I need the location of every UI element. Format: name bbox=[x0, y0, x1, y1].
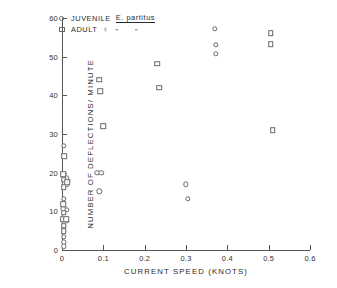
data-point-adult bbox=[268, 41, 274, 47]
data-point-adult bbox=[97, 89, 103, 95]
data-point-adult bbox=[60, 202, 66, 208]
y-tick-label: 10 bbox=[49, 207, 58, 216]
scatter-chart-figure: NUMBER OF DEFLECTIONS/ MINUTE CURRENT SP… bbox=[0, 0, 337, 288]
data-point-juvenile bbox=[96, 189, 101, 194]
data-point-juvenile bbox=[61, 143, 66, 148]
x-tick bbox=[145, 245, 146, 250]
y-tick-label: 50 bbox=[49, 52, 58, 61]
y-tick-label: 20 bbox=[49, 168, 58, 177]
x-tick-label: 0.1 bbox=[98, 254, 109, 263]
y-tick-label: 40 bbox=[49, 91, 58, 100]
y-tick-label: 30 bbox=[49, 130, 58, 139]
data-point-juvenile bbox=[61, 196, 66, 201]
data-point-adult bbox=[268, 31, 274, 37]
data-point-adult bbox=[101, 123, 107, 129]
x-tick-label: 0.6 bbox=[304, 254, 315, 263]
x-tick bbox=[227, 245, 228, 250]
plot-area: 0102030405060 00.10.20.30.40.50.6 bbox=[62, 18, 310, 250]
data-point-adult bbox=[61, 210, 67, 216]
data-point-adult bbox=[63, 216, 69, 222]
x-tick-label: 0.3 bbox=[180, 254, 191, 263]
x-tick-label: 0.4 bbox=[222, 254, 233, 263]
data-point-adult bbox=[156, 85, 162, 91]
data-point-juvenile bbox=[185, 196, 190, 201]
x-tick bbox=[269, 245, 270, 250]
x-tick bbox=[103, 245, 104, 250]
y-tick bbox=[62, 18, 67, 19]
data-point-adult bbox=[61, 185, 67, 191]
data-point-juvenile bbox=[213, 42, 218, 47]
y-tick bbox=[62, 134, 67, 135]
y-tick-label: 0 bbox=[54, 246, 58, 255]
y-tick-label: 60 bbox=[49, 14, 58, 23]
x-axis-title: CURRENT SPEED (KNOTS) bbox=[62, 267, 310, 276]
data-point-adult bbox=[154, 61, 160, 67]
data-point-juvenile bbox=[183, 182, 188, 187]
x-tick-label: 0 bbox=[60, 254, 64, 263]
data-point-adult bbox=[270, 127, 276, 133]
x-tick-label: 0.5 bbox=[263, 254, 274, 263]
data-point-juvenile bbox=[99, 170, 104, 175]
x-tick bbox=[186, 245, 187, 250]
data-point-adult bbox=[61, 153, 67, 159]
y-tick bbox=[62, 57, 67, 58]
x-axis-line bbox=[62, 250, 310, 251]
data-point-adult bbox=[61, 223, 67, 229]
y-tick bbox=[62, 95, 67, 96]
x-tick bbox=[310, 245, 311, 250]
x-tick-label: 0.2 bbox=[139, 254, 150, 263]
data-point-juvenile bbox=[212, 26, 217, 31]
data-point-juvenile bbox=[213, 51, 218, 56]
data-point-juvenile bbox=[61, 243, 66, 248]
data-point-adult bbox=[61, 229, 67, 235]
data-point-adult bbox=[96, 77, 102, 83]
y-tick bbox=[62, 250, 67, 251]
